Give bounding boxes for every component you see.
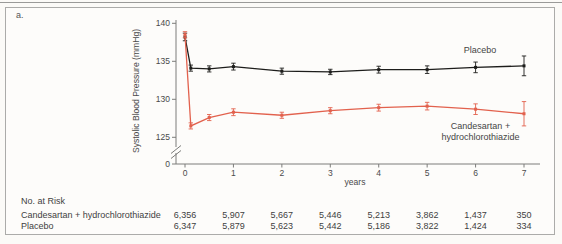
x-tick-label: 7	[514, 168, 534, 178]
risk-count-placebo-year-0: 6,347	[163, 221, 207, 231]
data-point-marker	[474, 66, 477, 69]
data-point-marker	[280, 70, 283, 73]
risk-count-placebo-year-1: 5,879	[211, 221, 255, 231]
y-tick-label: 125	[149, 132, 170, 142]
data-point-marker	[523, 64, 526, 67]
data-point-marker	[329, 70, 332, 73]
data-point-marker	[474, 108, 477, 111]
y-tick-label: 140	[149, 18, 170, 28]
risk-count-candesartan-year-6: 1,437	[454, 210, 498, 220]
data-point-marker	[280, 114, 283, 117]
candesartan-curve-label: Candesartan + hydrochlorothiazide	[418, 121, 543, 143]
data-point-marker	[523, 112, 526, 115]
risk-count-candesartan-year-4: 5,213	[357, 210, 401, 220]
x-tick-label: 4	[369, 168, 389, 178]
risk-count-placebo-year-6: 1,424	[454, 221, 498, 231]
data-point-marker	[232, 111, 235, 114]
risk-row-label-placebo: Placebo	[21, 221, 54, 231]
risk-count-placebo-year-3: 5,442	[308, 221, 352, 231]
risk-count-candesartan-year-2: 5,667	[260, 210, 304, 220]
data-point-marker	[426, 105, 429, 108]
y-tick-label: 130	[149, 94, 170, 104]
x-axis-title: years	[330, 177, 380, 187]
risk-count-candesartan-year-3: 5,446	[308, 210, 352, 220]
risk-count-placebo-year-4: 5,186	[357, 221, 401, 231]
data-point-marker	[208, 116, 211, 119]
placebo-curve-label: Placebo	[445, 45, 515, 56]
x-tick-label: 5	[417, 168, 437, 178]
risk-count-placebo-year-5: 3,822	[405, 221, 449, 231]
candesartan-curve-label-line2: hydrochlorothiazide	[418, 132, 543, 143]
risk-count-placebo-year-7: 334	[502, 221, 546, 231]
data-point-marker	[189, 124, 192, 127]
data-point-marker	[189, 67, 192, 70]
data-point-marker	[377, 68, 380, 71]
data-point-marker	[208, 67, 211, 70]
data-point-marker	[329, 109, 332, 112]
risk-count-candesartan-year-1: 5,907	[211, 210, 255, 220]
risk-count-candesartan-year-5: 3,862	[405, 210, 449, 220]
risk-table-title: No. at Risk	[21, 196, 65, 206]
candesartan-curve-label-line1: Candesartan +	[418, 121, 543, 132]
data-point-marker	[184, 33, 187, 36]
x-tick-label: 1	[223, 168, 243, 178]
risk-count-candesartan-year-7: 350	[502, 210, 546, 220]
y-tick-label-zero: 0	[149, 159, 170, 169]
data-point-marker	[232, 65, 235, 68]
data-point-marker	[377, 106, 380, 109]
x-tick-label: 2	[272, 168, 292, 178]
risk-count-placebo-year-2: 5,623	[260, 221, 304, 231]
x-tick-label: 0	[175, 168, 195, 178]
x-tick-label: 3	[320, 168, 340, 178]
x-tick-label: 6	[466, 168, 486, 178]
y-tick-label: 135	[149, 56, 170, 66]
data-point-marker	[426, 68, 429, 71]
risk-row-label-candesartan: Candesartan + hydrochlorothiazide	[21, 210, 161, 220]
risk-count-candesartan-year-0: 6,356	[163, 210, 207, 220]
y-axis-title: Systolic Blood Pressure (mmHg)	[131, 16, 143, 166]
